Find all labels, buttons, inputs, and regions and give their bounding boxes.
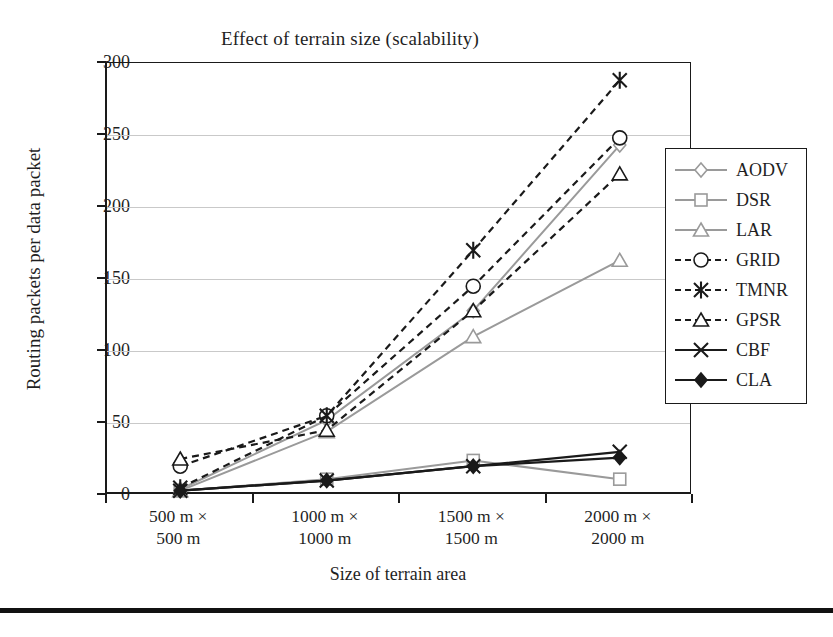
chart-figure: Effect of terrain size (scalability) Rou… (0, 0, 833, 637)
legend-item-gpsr[interactable]: GPSR (666, 305, 806, 335)
legend-swatch-grid (672, 249, 730, 271)
data-point-diamond-filled (695, 373, 707, 387)
legend-label: GRID (730, 250, 780, 271)
x-tick-label-line: 2000 m × (543, 505, 693, 527)
plot-area (107, 63, 690, 492)
x-tick-label: 1500 m ×1500 m (396, 505, 546, 550)
x-tick-label-line: 500 m (103, 527, 253, 549)
legend-label: AODV (730, 160, 788, 181)
data-point-asterisk (466, 242, 480, 259)
series-aodv (174, 138, 626, 496)
legend-label: LAR (730, 220, 772, 241)
x-tick-mark (252, 494, 254, 503)
x-tick-label-line: 1000 m (250, 527, 400, 549)
data-point-square-open (695, 194, 707, 206)
plot-frame (105, 62, 691, 494)
data-point-circle-open (694, 253, 708, 267)
x-tick-label: 500 m ×500 m (103, 505, 253, 550)
x-tick-label: 2000 m ×2000 m (543, 505, 693, 550)
legend-item-cla[interactable]: CLA (666, 365, 806, 395)
data-point-diamond-open (695, 163, 707, 177)
x-tick-label: 1000 m ×1000 m (250, 505, 400, 550)
legend-label: GPSR (730, 310, 781, 331)
x-tick-label-line: 1500 m (396, 527, 546, 549)
data-point-circle-open (613, 131, 627, 145)
data-point-square-open (614, 473, 626, 485)
chart-title: Effect of terrain size (scalability) (0, 28, 700, 50)
legend-label: CBF (730, 340, 770, 361)
x-tick-mark (545, 494, 547, 503)
x-tick-label-line: 500 m × (103, 505, 253, 527)
series-gpsr (173, 167, 628, 465)
x-tick-mark (105, 494, 107, 503)
series-grid (173, 131, 627, 473)
x-tick-mark (398, 494, 400, 503)
footer-rule (0, 608, 833, 613)
legend-label: CLA (730, 370, 772, 391)
data-point-triangle-open (466, 330, 481, 343)
x-tick-label-line: 2000 m (543, 527, 693, 549)
x-tick-label-line: 1000 m × (250, 505, 400, 527)
x-tick-mark (691, 494, 693, 503)
x-axis-label: Size of terrain area (105, 564, 691, 585)
legend-swatch-tmnr (672, 279, 730, 301)
legend-item-aodv[interactable]: AODV (666, 155, 806, 185)
chart-legend[interactable]: AODVDSRLARGRIDTMNRGPSRCBFCLA (665, 148, 807, 404)
legend-swatch-lar (672, 219, 730, 241)
legend-item-tmnr[interactable]: TMNR (666, 275, 806, 305)
legend-item-dsr[interactable]: DSR (666, 185, 806, 215)
data-point-circle-open (466, 279, 480, 293)
legend-swatch-dsr (672, 189, 730, 211)
data-point-asterisk (613, 72, 627, 89)
y-axis-label: Routing packets per data packet (23, 59, 45, 479)
legend-swatch-gpsr (672, 309, 730, 331)
x-tick-label-line: 1500 m × (396, 505, 546, 527)
series-tmnr (173, 72, 627, 497)
legend-item-grid[interactable]: GRID (666, 245, 806, 275)
legend-item-cbf[interactable]: CBF (666, 335, 806, 365)
legend-swatch-cbf (672, 339, 730, 361)
legend-label: DSR (730, 190, 771, 211)
legend-label: TMNR (730, 280, 788, 301)
legend-swatch-aodv (672, 159, 730, 181)
data-point-triangle-open (612, 167, 627, 180)
series-layer (107, 63, 693, 495)
data-point-triangle-open (612, 253, 627, 266)
legend-swatch-cla (672, 369, 730, 391)
legend-item-lar[interactable]: LAR (666, 215, 806, 245)
